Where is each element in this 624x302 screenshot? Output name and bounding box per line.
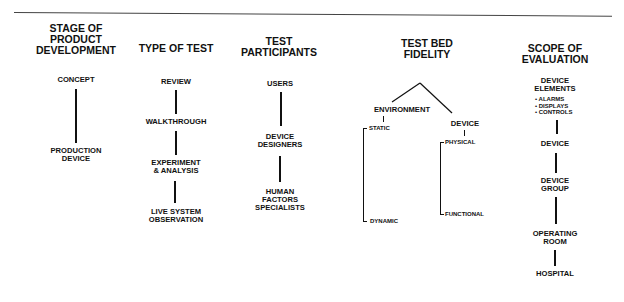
node-device-group: DEVICE GROUP: [525, 177, 585, 193]
range-dynamic: DYNAMIC: [370, 218, 398, 224]
node-label: ENVIRONMENT: [362, 106, 442, 114]
range-label: STATIC: [369, 125, 390, 131]
node-label: HOSPITAL: [525, 270, 585, 278]
range-bracket-line: [363, 128, 364, 221]
node-device-scope: DEVICE: [525, 140, 585, 148]
connector-line: [555, 197, 557, 224]
bullet-icon: •: [535, 109, 537, 115]
range-functional: FUNCTIONAL: [445, 211, 484, 217]
bullet-label: CONTROLS: [539, 109, 573, 115]
node-label: ROOM: [520, 238, 590, 246]
range-label: FUNCTIONAL: [445, 211, 484, 217]
range-label: DYNAMIC: [370, 218, 398, 224]
bullet-displays: • DISPLAYS: [535, 103, 572, 110]
header-line: EVALUATION: [515, 54, 595, 65]
connector-line: [556, 120, 558, 134]
range-label: PHYSICAL: [445, 139, 475, 145]
bullet-label: ALARMS: [539, 96, 565, 102]
node-device-fidelity: DEVICE: [440, 120, 490, 128]
connector-tick: [464, 130, 465, 136]
node-label: ELEMENTS: [525, 85, 585, 93]
node-environment: ENVIRONMENT: [362, 106, 442, 114]
range-static: STATIC: [369, 125, 390, 131]
connector-line: [555, 153, 557, 173]
range-physical: PHYSICAL: [445, 139, 475, 145]
range-bracket-bottom: [440, 214, 444, 215]
node-device-elements: DEVICE ELEMENTS: [525, 77, 585, 93]
range-bracket-line: [440, 142, 441, 214]
node-label: GROUP: [525, 185, 585, 193]
range-bracket-bottom: [363, 221, 367, 222]
header-scope-of-evaluation: SCOPE OF EVALUATION: [515, 43, 595, 65]
connector-tick: [383, 116, 384, 122]
bullet-alarms: • ALARMS: [535, 96, 572, 103]
device-elements-bullets: • ALARMS • DISPLAYS • CONTROLS: [535, 96, 572, 116]
bullet-label: DISPLAYS: [539, 103, 568, 109]
node-hospital: HOSPITAL: [525, 270, 585, 278]
bullet-icon: •: [535, 96, 537, 102]
bullet-controls: • CONTROLS: [535, 109, 572, 116]
connector-line: [554, 250, 556, 266]
bullet-icon: •: [535, 103, 537, 109]
node-label: DEVICE: [525, 140, 585, 148]
node-label: DEVICE: [440, 120, 490, 128]
node-operating-room: OPERATING ROOM: [520, 230, 590, 246]
